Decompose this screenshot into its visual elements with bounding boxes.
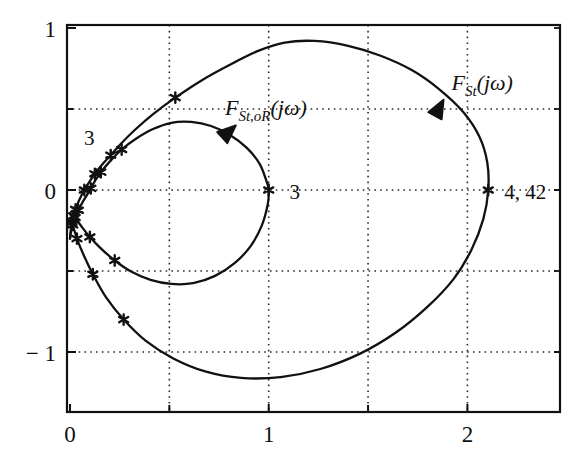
label-base: F (451, 70, 466, 95)
x-tick-label: 0 (64, 422, 76, 447)
data-point-marker (72, 233, 81, 243)
x-tick-label: 1 (263, 422, 275, 447)
omega-3-inner: 3 (290, 180, 301, 204)
plot-canvas: 01210− 1 334, 42 FSt(jω) FSt,oR(jω) (0, 0, 583, 467)
markers-f-st (67, 92, 492, 324)
point-annotations: 334, 42 (84, 126, 546, 204)
label-argument: (jω) (477, 70, 513, 95)
curve-label-f-st-or: FSt,oR(jω) (224, 95, 307, 124)
curve-f-st (70, 41, 489, 379)
omega-4-42: 4, 42 (504, 180, 546, 204)
nyquist-figure: 01210− 1 334, 42 FSt(jω) FSt,oR(jω) (0, 0, 583, 467)
label-subscript: St (465, 83, 478, 99)
label-subscript: St,oR (238, 108, 270, 124)
label-argument: (jω) (271, 95, 307, 120)
x-tick-label: 2 (462, 422, 474, 447)
curve-f-st-or (70, 122, 269, 285)
y-tick-label: 0 (45, 179, 57, 204)
y-tick-label: 1 (45, 17, 57, 42)
flow-direction-arrow (428, 96, 450, 119)
label-base: F (224, 95, 239, 120)
y-tick-label: − 1 (26, 341, 56, 366)
omega-3-outer: 3 (84, 126, 95, 150)
curve-label-f-st: FSt(jω) (451, 70, 513, 99)
data-point-marker (171, 92, 180, 102)
x-axis-ticks (70, 404, 467, 412)
tick-labels: 01210− 1 (26, 17, 473, 447)
